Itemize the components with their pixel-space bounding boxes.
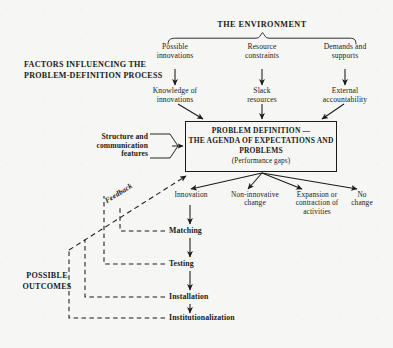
arrow-core-to-expansion — [262, 173, 302, 189]
environment-input-possible-innovations: Possible innovations — [137, 43, 213, 60]
side-factor-structure-and-communication: Structure and communication features — [62, 133, 148, 159]
mediating-factor-slack-resources: Slack resources — [224, 87, 300, 104]
arrow-knowledge-to-core — [178, 104, 203, 119]
feedback-from-institutionalization — [69, 250, 165, 318]
section-heading-factors: FACTORS INFLUENCING THE PROBLEM-DEFINITI… — [24, 60, 174, 81]
mediating-factor-knowledge-of-innovations: Knowledge of innovations — [137, 87, 213, 104]
factor-to-core-arrows — [178, 104, 344, 119]
core-to-outcomes-arrows — [191, 173, 357, 189]
feedback-from-matching — [120, 205, 165, 231]
core-problem-definition-box: PROBLEM DEFINITION — THE AGENDA OF EXPEC… — [185, 121, 337, 172]
arrow-core-to-innovation — [191, 173, 262, 189]
mediating-factor-external-accountability: External accountability — [307, 87, 383, 104]
chain-step-testing: Testing — [169, 260, 269, 269]
feedback-from-testing — [104, 196, 165, 264]
chain-step-installation: Installation — [169, 293, 269, 302]
core-box-line-1: PROBLEM DEFINITION — — [212, 126, 311, 136]
chain-step-institutionalization: Institutionalization — [169, 314, 289, 323]
environment-input-demands-and-supports: Demands and supports — [307, 43, 383, 60]
environment-input-resource-constraints: Resource constraints — [224, 43, 300, 60]
merge-top — [170, 134, 178, 146]
outcome-no-change: No change — [340, 191, 384, 208]
structure-features-connector — [150, 134, 183, 158]
arrow-accountability-to-core — [322, 104, 344, 119]
core-box-line-2: THE AGENDA OF EXPECTATIONS AND — [188, 136, 333, 146]
arrow-core-to-no-change — [262, 173, 357, 189]
core-box-line-3: PROBLEMS — [239, 146, 283, 156]
merge-bottom — [170, 146, 178, 158]
outcome-innovation: Innovation — [158, 191, 224, 199]
chain-step-matching: Matching — [169, 227, 269, 236]
environment-title: THE ENVIRONMENT — [202, 20, 322, 29]
diagram-canvas: THE ENVIRONMENT FACTORS INFLUENCING THE … — [0, 0, 393, 348]
core-box-line-4: (Performance gaps) — [232, 157, 290, 167]
feedback-from-installation — [85, 240, 165, 297]
section-heading-possible-outcomes: POSSIBLE OUTCOMES — [16, 271, 78, 292]
input-to-factor-arrows — [175, 69, 345, 85]
feedback-dashed-paths — [69, 196, 165, 318]
